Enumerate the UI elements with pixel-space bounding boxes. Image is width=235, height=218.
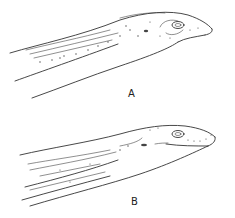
panel-b-label: B bbox=[131, 196, 138, 207]
head-b-dorsal-outline bbox=[20, 125, 215, 155]
panel-a-label: A bbox=[128, 88, 135, 99]
eye-b-inner bbox=[175, 133, 181, 136]
panel-a: A bbox=[10, 12, 212, 99]
nostril-a bbox=[144, 30, 148, 33]
nostril-b bbox=[141, 144, 147, 146]
eye-a-icon bbox=[172, 22, 184, 29]
body-b-lateral-line-lower bbox=[22, 176, 110, 200]
eye-a-inner bbox=[175, 24, 181, 27]
eye-b-icon bbox=[172, 131, 184, 138]
body-a-lateral-line bbox=[15, 44, 118, 81]
head-a-ventral-outline bbox=[32, 42, 178, 98]
orbit-a-outline bbox=[160, 20, 183, 35]
head-a-snout bbox=[205, 29, 212, 35]
figure-canvas: A B bbox=[0, 0, 235, 218]
panel-b: B bbox=[20, 125, 215, 207]
head-a-mouth-line bbox=[178, 35, 205, 42]
head-b-mouth-line bbox=[166, 144, 208, 146]
head-b-snout bbox=[208, 137, 215, 146]
head-b-ventral-outline bbox=[30, 146, 208, 206]
body-b-lateral-line-upper bbox=[25, 160, 118, 187]
